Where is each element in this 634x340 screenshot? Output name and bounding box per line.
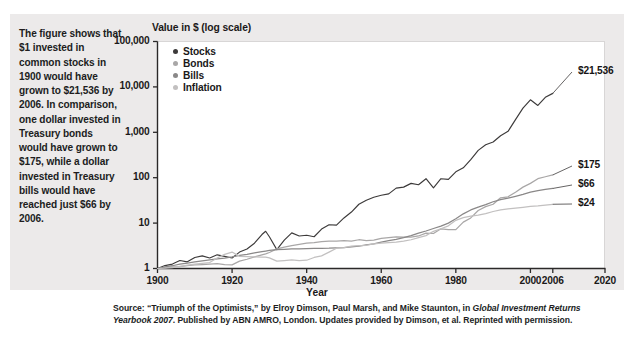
y-tick-label: 100,000 — [80, 35, 150, 46]
legend-dot-stocks — [173, 49, 178, 54]
legend-item-bonds: Bonds — [173, 57, 222, 69]
x-tick-label: 1980 — [431, 275, 481, 286]
legend-dot-inflation — [173, 85, 178, 90]
end-label-bonds: $175 — [578, 159, 600, 170]
x-tick-label: 1940 — [282, 275, 332, 286]
source-note: Source: “Triumph of the Optimists,” by E… — [113, 302, 621, 327]
end-label-inflation: $24 — [578, 197, 594, 208]
chart-legend: Stocks Bonds Bills Inflation — [173, 45, 222, 94]
legend-label-bonds: Bonds — [183, 58, 214, 69]
legend-label-stocks: Stocks — [183, 46, 216, 57]
legend-label-inflation: Inflation — [183, 82, 222, 93]
y-tick-label: 1,000 — [80, 126, 150, 137]
y-tick-label: 100 — [80, 171, 150, 182]
x-tick-label: 2006 — [528, 275, 578, 286]
x-tick-label: 1920 — [207, 275, 257, 286]
y-tick-label: 10,000 — [80, 80, 150, 91]
y-tick-label: 10 — [80, 217, 150, 228]
legend-dot-bills — [173, 73, 178, 78]
source-text-part2: . Published by ABN AMRO, London. Updates… — [173, 315, 573, 325]
legend-item-inflation: Inflation — [173, 82, 222, 94]
x-tick-label: 1960 — [356, 275, 406, 286]
end-label-stocks: $21,536 — [578, 65, 613, 76]
legend-dot-bonds — [173, 61, 178, 66]
x-tick-label: 1900 — [133, 275, 183, 286]
legend-item-bills: Bills — [173, 69, 222, 81]
x-axis-title: Year — [0, 287, 634, 298]
y-tick-label: 1 — [80, 262, 150, 273]
figure-container: The figure shows that $1 invested in com… — [0, 0, 634, 340]
legend-label-bills: Bills — [183, 70, 204, 81]
x-tick-label: 2020 — [580, 275, 630, 286]
end-label-bills: $66 — [578, 178, 594, 189]
source-text-part1: Source: “Triumph of the Optimists,” by E… — [113, 303, 473, 313]
legend-item-stocks: Stocks — [173, 45, 222, 57]
